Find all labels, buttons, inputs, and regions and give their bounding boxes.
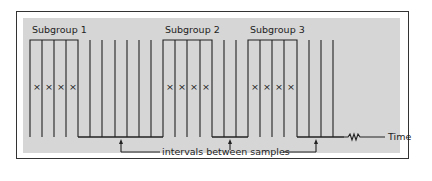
sampling-diagram: Subgroup 1 Subgroup 2 Subgroup 3 × × × ×… <box>0 0 432 181</box>
sample-mark: × <box>275 81 283 92</box>
sample-mark: × <box>287 81 295 92</box>
sample-mark: × <box>69 81 77 92</box>
sample-mark: × <box>190 81 198 92</box>
interval-label: intervals between samples <box>162 146 290 157</box>
subgroup-3-label: Subgroup 3 <box>250 24 305 35</box>
subgroup-2-label: Subgroup 2 <box>165 24 220 35</box>
sample-mark: × <box>33 81 41 92</box>
subgroup-1-label: Subgroup 1 <box>32 24 87 35</box>
sample-mark: × <box>251 81 259 92</box>
sample-mark: × <box>166 81 174 92</box>
sample-mark: × <box>202 81 210 92</box>
axis-break-icon <box>344 134 385 140</box>
sample-mark: × <box>178 81 186 92</box>
time-axis-label: Time <box>387 131 411 142</box>
sample-mark: × <box>263 81 271 92</box>
sample-mark: × <box>57 81 65 92</box>
sample-mark: × <box>45 81 53 92</box>
